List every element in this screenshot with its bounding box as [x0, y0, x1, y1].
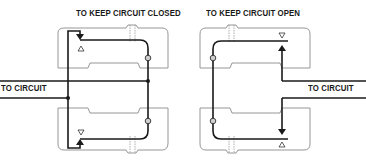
bottom-switch-housing	[58, 108, 168, 153]
top-switch-housing	[200, 25, 310, 68]
arrow-up-icon	[278, 45, 286, 51]
down-triangle-icon	[78, 130, 84, 135]
panel-closed	[0, 25, 168, 153]
down-triangle-icon	[279, 33, 285, 38]
terminal-screw-icon	[210, 55, 216, 61]
bottom-switch-housing	[200, 108, 310, 153]
diagram-graphics	[0, 0, 366, 161]
panel-open	[200, 25, 366, 153]
arrow-down-icon	[76, 34, 84, 40]
arrow-up-icon	[76, 139, 84, 145]
junction-dot	[146, 79, 150, 83]
arrow-down-icon	[278, 129, 286, 135]
terminal-screw-icon	[210, 118, 216, 124]
switch-wiring-diagram: TO KEEP CIRCUIT CLOSED TO KEEP CIRCUIT O…	[0, 0, 366, 161]
terminal-screw-icon	[145, 118, 151, 124]
terminal-screw-icon	[145, 55, 151, 61]
junction-dot	[66, 96, 70, 100]
up-triangle-icon	[279, 142, 285, 147]
up-triangle-icon	[78, 46, 84, 51]
